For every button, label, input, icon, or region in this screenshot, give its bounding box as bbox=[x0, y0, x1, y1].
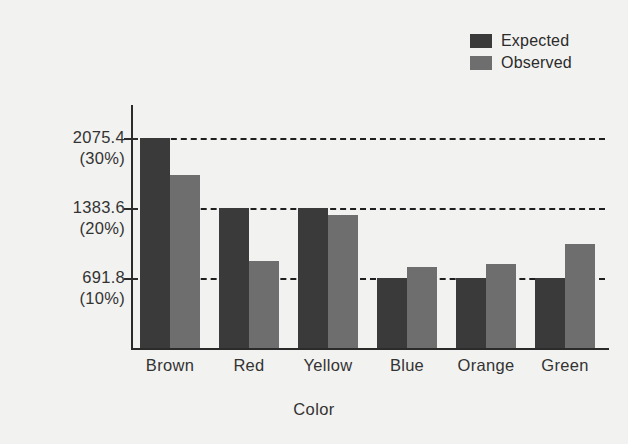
bar-orange-expected[interactable] bbox=[456, 278, 486, 348]
legend-label-expected: Expected bbox=[501, 32, 569, 50]
bar-red-observed[interactable] bbox=[249, 261, 279, 348]
y-tick-label-group: 1383.6(20%) bbox=[0, 197, 125, 239]
x-tick-label-brown: Brown bbox=[128, 356, 212, 375]
y-tick-mark bbox=[124, 138, 138, 140]
x-axis-title: Color bbox=[0, 400, 628, 419]
bar-red-expected[interactable] bbox=[219, 208, 249, 348]
legend-item-observed: Observed bbox=[470, 52, 620, 74]
legend-swatch-expected bbox=[470, 34, 492, 48]
y-tick-percent: (30%) bbox=[0, 147, 125, 169]
x-tick-label-green: Green bbox=[523, 356, 607, 375]
y-tick-mark bbox=[124, 278, 138, 280]
x-tick-label-red: Red bbox=[207, 356, 291, 375]
gridline bbox=[131, 138, 605, 140]
bar-blue-observed[interactable] bbox=[407, 267, 437, 348]
y-tick-label-group: 691.8(10%) bbox=[0, 267, 125, 309]
x-tick-label-orange: Orange bbox=[444, 356, 528, 375]
bar-yellow-expected[interactable] bbox=[298, 208, 328, 348]
x-axis-line bbox=[131, 348, 609, 350]
x-tick-label-blue: Blue bbox=[365, 356, 449, 375]
y-tick-label-group: 2075.4(30%) bbox=[0, 127, 125, 169]
gridline bbox=[131, 208, 605, 210]
plot-area bbox=[131, 107, 605, 348]
y-tick-mark bbox=[124, 208, 138, 210]
bar-orange-observed[interactable] bbox=[486, 264, 516, 348]
bar-brown-expected[interactable] bbox=[140, 138, 170, 348]
x-tick-label-yellow: Yellow bbox=[286, 356, 370, 375]
y-tick-value: 2075.4 bbox=[0, 127, 125, 147]
bar-blue-expected[interactable] bbox=[377, 278, 407, 348]
y-tick-value: 691.8 bbox=[0, 267, 125, 287]
y-tick-percent: (10%) bbox=[0, 287, 125, 309]
bar-green-observed[interactable] bbox=[565, 244, 595, 348]
legend-label-observed: Observed bbox=[501, 54, 572, 72]
legend-item-expected: Expected bbox=[470, 30, 620, 52]
y-tick-value: 1383.6 bbox=[0, 197, 125, 217]
legend-swatch-observed bbox=[470, 56, 492, 70]
gridline bbox=[131, 278, 605, 280]
bar-yellow-observed[interactable] bbox=[328, 215, 358, 348]
bar-green-expected[interactable] bbox=[535, 278, 565, 348]
chart-legend: Expected Observed bbox=[470, 30, 620, 74]
y-tick-percent: (20%) bbox=[0, 217, 125, 239]
bar-chart: Expected Observed Count 691.8(10%)1383.6… bbox=[0, 0, 628, 444]
bar-brown-observed[interactable] bbox=[170, 175, 200, 348]
